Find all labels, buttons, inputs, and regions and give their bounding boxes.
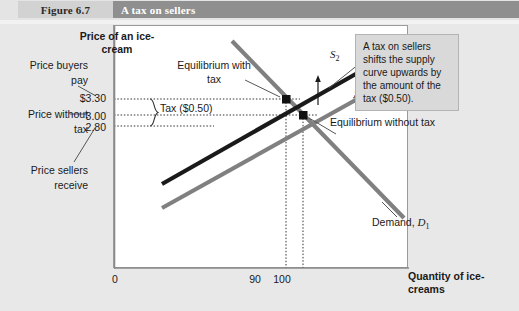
x-axis-title: Quantity of ice-creams bbox=[408, 270, 503, 296]
label-demand-curve: Demand, D1 bbox=[372, 216, 429, 233]
label-tax-bracket: Tax ($0.50) bbox=[160, 102, 213, 115]
callout-box: A tax on sellers shifts the supply curve… bbox=[355, 34, 459, 111]
header-underline bbox=[0, 20, 519, 24]
figure-number-box: Figure 6.7 bbox=[18, 1, 113, 18]
y-axis-title: Price of an ice-cream bbox=[74, 30, 160, 56]
callout-text: A tax on sellers shifts the supply curve… bbox=[363, 41, 441, 104]
equilibrium-with-tax-marker bbox=[282, 95, 291, 104]
x-tick-label-90: 90 bbox=[243, 273, 267, 286]
label-price-buyers-pay: Price buyers pay bbox=[26, 58, 88, 88]
label-equilibrium-without-tax: Equilibrium without tax bbox=[330, 116, 435, 129]
figure-container: Figure 6.7 A tax on sellers bbox=[0, 0, 519, 311]
label-supply-curve-s2: S2 bbox=[330, 48, 340, 65]
x-axis-origin-label: 0 bbox=[104, 273, 126, 286]
figure-title-label: A tax on sellers bbox=[113, 4, 195, 16]
label-price-sellers-receive: Price sellers receive bbox=[26, 163, 88, 193]
figure-title-box: A tax on sellers bbox=[113, 1, 519, 18]
demand-subscript: 1 bbox=[425, 222, 429, 231]
demand-text: Demand, bbox=[372, 216, 418, 228]
label-price-without-tax: Price without tax bbox=[26, 107, 88, 137]
s2-subscript: 2 bbox=[336, 54, 340, 63]
supply-shift-arrow bbox=[315, 75, 321, 105]
figure-number-label: Figure 6.7 bbox=[41, 4, 90, 16]
tax-bracket-brace bbox=[150, 99, 158, 126]
y-tick-label-330: $3.30 bbox=[48, 92, 106, 105]
x-tick-label-100: 100 bbox=[267, 273, 297, 286]
label-equilibrium-with-tax: Equilibrium with tax bbox=[171, 58, 257, 86]
equilibrium-without-tax-marker bbox=[299, 111, 308, 120]
